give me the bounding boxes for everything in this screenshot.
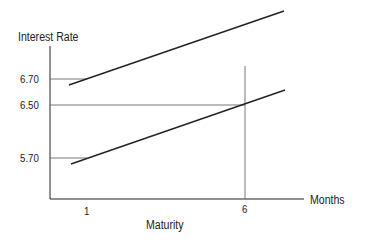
- x-unit-label: Months: [310, 193, 345, 207]
- upper-yield-curve: [69, 11, 284, 85]
- y-tick-5-70: 5.70: [20, 152, 39, 164]
- y-axis-label: Interest Rate: [18, 30, 78, 44]
- lower-yield-curve: [71, 90, 285, 164]
- x-tick-1: 1: [84, 205, 89, 217]
- y-tick-6-70: 6.70: [20, 73, 39, 85]
- y-tick-6-50: 6.50: [20, 99, 39, 111]
- x-axis-label: Maturity: [146, 218, 184, 232]
- x-tick-6: 6: [242, 203, 247, 215]
